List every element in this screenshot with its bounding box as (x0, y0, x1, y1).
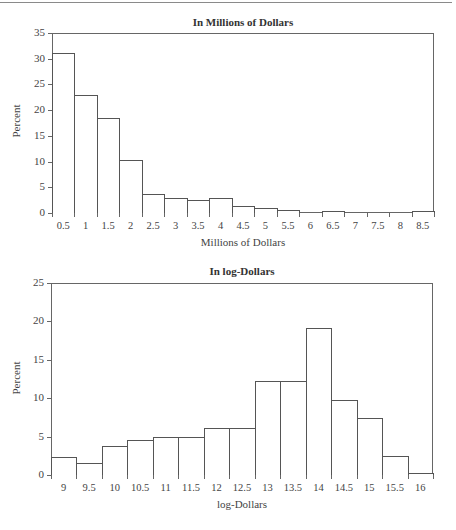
x-tick-label: 13.5 (280, 482, 305, 493)
y-tick-label: 30 (25, 52, 45, 64)
x-tick-mark (127, 475, 128, 479)
y-tick-label: 10 (25, 155, 45, 167)
x-tick-label: 11.5 (178, 482, 203, 493)
x-tick-mark (344, 213, 345, 217)
x-tick-label: 5 (254, 220, 276, 231)
x-tick-mark (119, 213, 120, 217)
y-tick-mark (47, 321, 51, 322)
x-tick-label: 7 (344, 220, 366, 231)
histogram-bar (164, 198, 187, 213)
histogram-bar (322, 211, 345, 213)
chart-title: In Millions of Dollars (52, 16, 434, 28)
histogram-bar (254, 208, 277, 213)
x-tick-mark (434, 213, 435, 217)
y-tick-mark (48, 162, 52, 163)
x-tick-label: 15 (357, 482, 382, 493)
x-tick-mark (389, 213, 390, 217)
x-tick-label: 2 (119, 220, 141, 231)
x-tick-mark (229, 475, 230, 479)
y-tick-mark (48, 59, 52, 60)
x-tick-mark (142, 213, 143, 217)
histogram-bar (255, 381, 281, 475)
histogram-bar (142, 194, 165, 213)
x-axis-label: Millions of Dollars (52, 236, 434, 248)
y-tick-label: 5 (25, 180, 45, 192)
y-tick-mark (48, 84, 52, 85)
histogram-bar (204, 428, 230, 475)
x-tick-label: 8 (389, 220, 411, 231)
x-tick-mark (164, 213, 165, 217)
x-tick-mark (102, 475, 103, 479)
chart-title: In log-Dollars (51, 265, 433, 277)
x-tick-label: 12 (204, 482, 229, 493)
x-tick-mark (433, 475, 434, 479)
x-tick-mark (277, 213, 278, 217)
y-tick-label: 0 (24, 468, 44, 480)
histogram-bar (119, 160, 142, 213)
x-tick-mark (382, 475, 383, 479)
histogram-bar (229, 428, 255, 475)
histogram-bar (51, 457, 77, 475)
histogram-bar (382, 456, 408, 475)
x-tick-label: 3 (164, 220, 186, 231)
x-tick-label: 1 (74, 220, 96, 231)
x-tick-label: 16 (408, 482, 433, 493)
x-tick-label: 9 (51, 482, 76, 493)
histogram-bar (178, 437, 204, 475)
x-tick-mark (204, 475, 205, 479)
histogram-bar (97, 118, 120, 213)
x-tick-mark (412, 213, 413, 217)
x-tick-label: 9.5 (76, 482, 101, 493)
y-tick-label: 10 (24, 391, 44, 403)
x-tick-label: 5.5 (277, 220, 299, 231)
x-tick-label: 4 (209, 220, 231, 231)
histogram-bar (306, 328, 332, 475)
x-tick-mark (280, 475, 281, 479)
x-tick-label: 10.5 (127, 482, 152, 493)
x-tick-mark (52, 213, 53, 217)
x-tick-label: 11 (153, 482, 178, 493)
x-tick-label: 1.5 (97, 220, 119, 231)
x-tick-mark (408, 475, 409, 479)
x-tick-mark (254, 213, 255, 217)
x-tick-mark (306, 475, 307, 479)
x-axis-label: log-Dollars (51, 498, 433, 510)
x-tick-mark (299, 213, 300, 217)
histogram-bar (357, 418, 383, 475)
x-tick-label: 2.5 (142, 220, 164, 231)
x-tick-label: 14 (306, 482, 331, 493)
x-tick-label: 0.5 (52, 220, 74, 231)
x-tick-label: 4.5 (232, 220, 254, 231)
histogram-bar (408, 473, 434, 475)
x-tick-mark (51, 475, 52, 479)
y-tick-label: 20 (24, 314, 44, 326)
y-tick-label: 15 (24, 353, 44, 365)
x-tick-mark (255, 475, 256, 479)
histogram-bar (52, 53, 75, 213)
x-tick-mark (187, 213, 188, 217)
histogram-bar (232, 206, 255, 213)
x-tick-label: 3.5 (187, 220, 209, 231)
y-tick-mark (47, 437, 51, 438)
histogram-bar (280, 381, 306, 475)
y-tick-label: 25 (25, 77, 45, 89)
histogram-bar (102, 446, 128, 475)
histogram-bar (277, 210, 300, 213)
y-tick-mark (48, 33, 52, 34)
histogram-bar (187, 200, 210, 213)
y-tick-label: 0 (25, 206, 45, 218)
y-tick-mark (48, 187, 52, 188)
x-tick-label: 15.5 (382, 482, 407, 493)
y-tick-mark (47, 283, 51, 284)
x-tick-label: 13 (255, 482, 280, 493)
x-tick-mark (209, 213, 210, 217)
page-header-rule (0, 2, 452, 3)
x-tick-mark (74, 213, 75, 217)
histogram-bar (412, 211, 435, 213)
y-axis-label: Percent (10, 358, 22, 398)
x-tick-label: 14.5 (331, 482, 356, 493)
histogram-bar (74, 95, 97, 213)
histogram-bar (209, 198, 232, 213)
y-tick-mark (47, 360, 51, 361)
y-tick-label: 5 (24, 430, 44, 442)
